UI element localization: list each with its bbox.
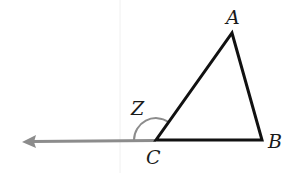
vertex-label-a: A (224, 6, 240, 28)
triangle-abc (156, 33, 262, 140)
vertex-label-c: C (146, 146, 161, 168)
angle-label-z: Z (130, 97, 145, 119)
extended-ray (22, 135, 156, 148)
vertex-label-b: B (267, 130, 282, 152)
exterior-angle-diagram: A B C Z (0, 0, 296, 173)
arrowhead-icon (22, 135, 36, 148)
